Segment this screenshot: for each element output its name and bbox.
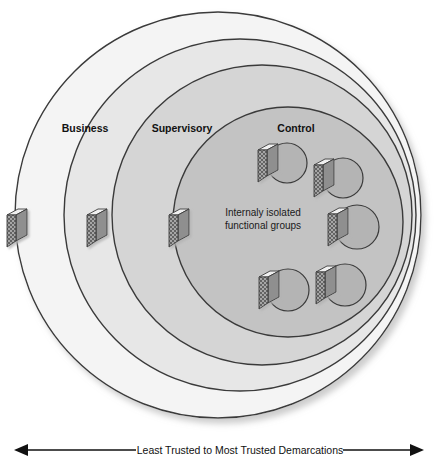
core-text-line-2: functional groups	[225, 220, 301, 231]
zone-label-business: Business	[62, 122, 109, 134]
left-arrow-icon	[14, 444, 28, 456]
right-arrow-icon	[410, 444, 424, 456]
zone-label-control: Control	[277, 122, 314, 134]
trust-axis: Least Trusted to Most Trusted Demarcatio…	[14, 444, 424, 456]
core-text-line-1: Internaly isolated	[225, 207, 301, 218]
zone-label-supervisory: Supervisory	[152, 122, 213, 134]
trust-zone-diagram: Business Supervisory Control Internaly i…	[0, 0, 437, 469]
trust-axis-label: Least Trusted to Most Trusted Demarcatio…	[137, 444, 344, 456]
diagram-canvas: Business Supervisory Control Internaly i…	[0, 0, 437, 469]
